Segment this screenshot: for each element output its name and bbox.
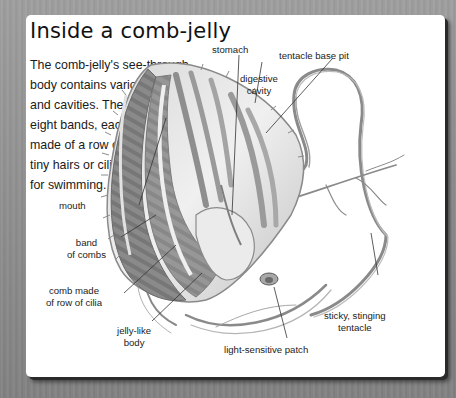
- diagram-card: Inside a comb-jelly The comb-jelly's see…: [26, 15, 445, 377]
- label-jelly-like-body: jelly-like body: [117, 325, 151, 348]
- label-band-of-combs: band of combs: [67, 237, 106, 260]
- label-digestive-cavity: digestive cavity: [240, 73, 278, 96]
- label-tentacle-base-pit: tentacle base pit: [279, 50, 349, 62]
- label-mouth: mouth: [59, 200, 86, 212]
- label-sticky-stinging-tentacle: sticky, stinging tentacle: [324, 310, 386, 333]
- label-comb-made-of-cilia: comb made of row of cilia: [46, 285, 102, 308]
- jelly-body-drawing: [101, 63, 304, 302]
- label-light-sensitive-patch: light-sensitive patch: [224, 344, 308, 356]
- label-stomach: stomach: [212, 44, 248, 56]
